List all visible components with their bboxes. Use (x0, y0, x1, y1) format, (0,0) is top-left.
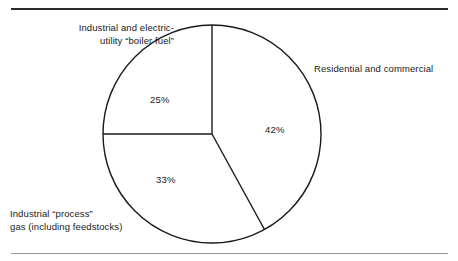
slice-label-process-gas-line1: Industrial “process” (10, 208, 122, 221)
slice-label-boiler-fuel-line2: utility “boiler fuel” (26, 35, 174, 48)
slice-value-residential-commercial: 42% (265, 124, 285, 135)
slice-label-process-gas-line2: gas (including feedstocks) (10, 221, 122, 234)
slice-label-residential-commercial-line1: Residential and commercial (314, 63, 433, 76)
slice-value-process-gas: 33% (156, 174, 176, 185)
bottom-divider-rule (11, 253, 448, 254)
slice-value-boiler-fuel: 25% (150, 94, 170, 105)
slice-label-residential-commercial: Residential and commercial (314, 63, 433, 76)
slice-label-process-gas: Industrial “process” gas (including feed… (10, 208, 122, 233)
slice-label-boiler-fuel-line1: Industrial and electric- (26, 22, 174, 35)
slice-label-boiler-fuel: Industrial and electric- utility “boiler… (26, 22, 174, 47)
pie-chart-figure: 25% 42% 33% Industrial and electric- uti… (0, 0, 458, 261)
